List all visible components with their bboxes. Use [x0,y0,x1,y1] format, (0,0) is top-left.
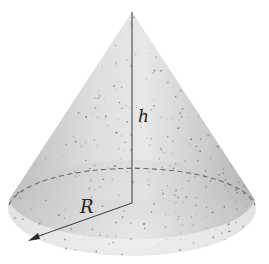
cone-diagram: h R [0,0,269,264]
cone-figure [0,0,269,264]
radius-label: R [80,198,94,216]
height-label: h [138,108,149,125]
